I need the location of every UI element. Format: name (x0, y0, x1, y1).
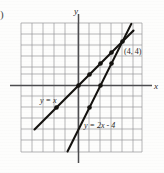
intersection-point-dot (120, 39, 125, 44)
point-dot (54, 105, 59, 110)
point-dot (87, 105, 92, 110)
point-dot (98, 61, 103, 66)
graph-figure: ) (0, 0, 164, 173)
axes (10, 14, 152, 163)
coordinate-plane-svg: y x (4, 4) y = x y = 2x - 4 (0, 0, 164, 173)
point-dot (76, 83, 81, 88)
y-axis-label: y (73, 6, 78, 16)
intersection-point-label: (4, 4) (124, 47, 142, 56)
x-axis-label: x (153, 81, 158, 91)
line1-equation-label: y = x (39, 96, 57, 105)
item-marker-label: ) (0, 8, 4, 20)
line2-equation-label: y = 2x - 4 (83, 121, 115, 130)
point-dot (87, 72, 92, 77)
point-dot (109, 61, 114, 66)
point-dot (109, 50, 114, 55)
point-dot (98, 83, 103, 88)
